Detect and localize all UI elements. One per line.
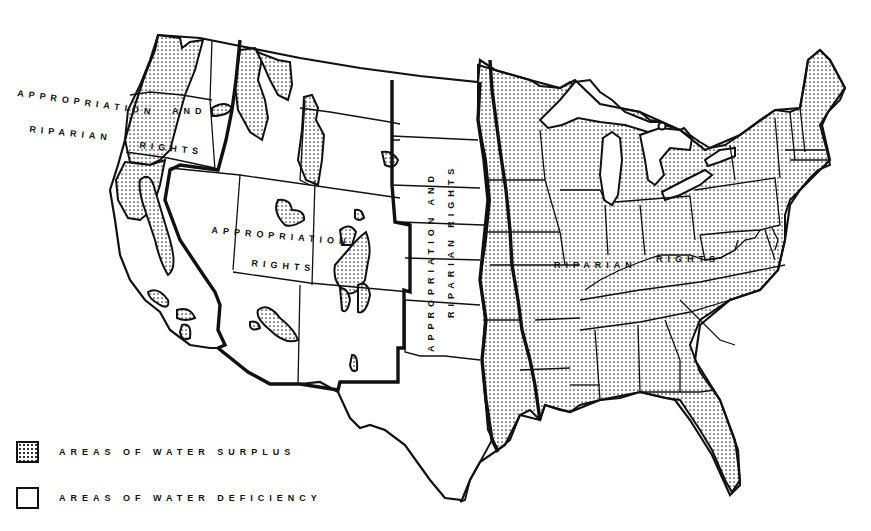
label-east-riparian: RIPARIAN — [554, 260, 637, 270]
legend-item-surplus: AREAS OF WATER SURPLUS — [16, 441, 295, 463]
legend-label-deficiency: AREAS OF WATER DEFICIENCY — [59, 493, 322, 503]
surplus-new-mexico-small — [350, 355, 357, 371]
label-plains-appropriation-and: APPROPRIATION AND — [426, 171, 436, 352]
surplus-sierra-small-3 — [180, 325, 190, 340]
surplus-wyoming-small — [382, 152, 398, 167]
surplus-sierra-small-2 — [177, 309, 195, 320]
lake-michigan — [600, 132, 622, 205]
label-west-and: AND — [172, 106, 207, 116]
surplus-arizona-mogollon — [258, 307, 299, 341]
surplus-arizona-small — [250, 322, 260, 330]
surplus-utah-wasatch — [276, 200, 304, 226]
label-plains-riparian-rights: RIPARIAN RIGHTS — [446, 164, 456, 318]
legend-label-surplus: AREAS OF WATER SURPLUS — [59, 447, 295, 457]
dotted-swatch-icon — [16, 441, 39, 463]
blank-swatch-icon — [16, 487, 39, 509]
label-east-rights: RIGHTS — [656, 254, 720, 264]
surplus-oregon-idaho — [212, 104, 232, 116]
surplus-colorado-north — [355, 210, 364, 220]
legend-item-deficiency: AREAS OF WATER DEFICIENCY — [16, 487, 322, 509]
